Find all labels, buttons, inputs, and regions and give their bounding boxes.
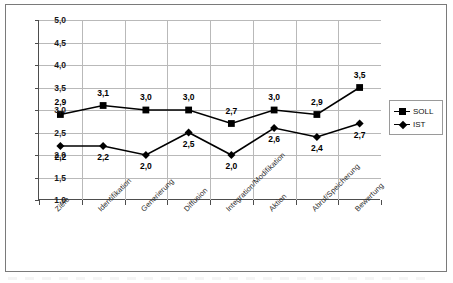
data-label-soll: 3,5 [354, 71, 366, 80]
data-point-marker [185, 129, 193, 137]
chart-legend[interactable]: SOLL IST [389, 100, 443, 135]
x-tick-mark [296, 200, 297, 205]
x-tick-mark [125, 200, 126, 205]
x-tick-mark [253, 200, 254, 205]
data-point-marker [356, 120, 364, 128]
x-tick-mark [82, 200, 83, 205]
data-point-marker [142, 107, 149, 114]
data-label-soll: 3,0 [268, 93, 280, 102]
data-point-marker [271, 107, 278, 114]
chart-frame: 2,93,13,03,02,73,02,93,52,22,22,02,52,02… [5, 4, 447, 272]
data-label-soll: 2,7 [225, 107, 237, 116]
y-tick-label: 3,0 [38, 106, 66, 115]
legend-item-ist[interactable]: IST [394, 118, 442, 131]
y-tick-label: 2,5 [38, 129, 66, 138]
data-point-marker [228, 120, 235, 127]
data-point-marker [100, 102, 107, 109]
y-tick-label: 4,0 [38, 61, 66, 70]
x-tick-mark [210, 200, 211, 205]
data-label-ist: 2,0 [225, 162, 237, 171]
y-tick-label: 5,0 [38, 16, 66, 25]
scan-artifact [8, 277, 428, 280]
y-tick-label: 1,5 [38, 174, 66, 183]
x-tick-mark [338, 200, 339, 205]
data-label-soll: 2,9 [311, 98, 323, 107]
y-tick-label: 4,5 [38, 39, 66, 48]
data-point-marker [313, 133, 321, 141]
data-point-marker [185, 107, 192, 114]
y-tick-label: 2,0 [38, 151, 66, 160]
data-label-ist: 2,0 [140, 162, 152, 171]
data-label-ist: 2,6 [268, 135, 280, 144]
x-tick-mark [167, 200, 168, 205]
data-label-soll: 3,0 [183, 93, 195, 102]
legend-label-ist: IST [413, 120, 425, 129]
data-point-marker [142, 151, 150, 159]
legend-label-soll: SOLL [413, 107, 433, 116]
series-lines [39, 20, 381, 200]
data-point-marker [99, 142, 107, 150]
legend-item-soll[interactable]: SOLL [394, 105, 442, 118]
diamond-marker-icon [394, 120, 410, 129]
data-point-marker [56, 142, 64, 150]
data-point-marker [227, 151, 235, 159]
data-label-soll: 3,1 [97, 89, 109, 98]
square-marker-icon [394, 107, 410, 116]
data-point-marker [270, 124, 278, 132]
data-label-ist: 2,4 [311, 144, 323, 153]
plot-area: 2,93,13,03,02,73,02,93,52,22,22,02,52,02… [38, 20, 380, 200]
data-label-ist: 2,2 [97, 153, 109, 162]
data-point-marker [356, 84, 363, 91]
data-point-marker [313, 111, 320, 118]
data-label-ist: 2,5 [183, 140, 195, 149]
y-tick-label: 3,5 [38, 84, 66, 93]
data-label-ist: 2,7 [354, 131, 366, 140]
x-tick-mark [381, 200, 382, 205]
data-label-soll: 3,0 [140, 93, 152, 102]
